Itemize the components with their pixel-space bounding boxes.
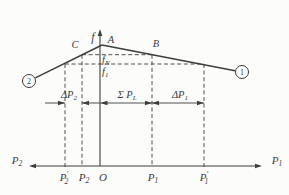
delta-p2-label: ΔP2	[60, 89, 78, 102]
point-a-label: A	[107, 34, 115, 45]
delta-p1-label: ΔP1	[171, 89, 188, 102]
tick-p1: P1	[147, 171, 158, 185]
frequency-axis-arrowhead	[98, 29, 103, 36]
point-c-label: C	[71, 39, 79, 50]
system-2-node-digit: 2	[27, 77, 31, 86]
system-1-characteristic-line	[102, 45, 235, 71]
point-b-label: B	[153, 38, 160, 49]
f1-level-guide-label: f1	[102, 66, 108, 79]
tick-origin: O	[99, 171, 107, 183]
tick-p2: P2	[78, 171, 90, 185]
frequency-power-diagram: fNf1fP2P121ABCΔP2Σ PLΔP1P′2P2OP1P′1	[0, 0, 289, 195]
system-1-node-digit: 1	[240, 68, 244, 77]
dimension-arrowhead-right-1	[58, 101, 65, 106]
dimension-arrowhead-left-3	[101, 101, 108, 106]
figure-canvas: fNf1fP2P121ABCΔP2Σ PLΔP1P′2P2OP1P′1	[0, 0, 289, 195]
power-axis-right-label: P1	[271, 154, 282, 168]
dimension-arrowhead-right-4	[197, 101, 204, 106]
power-axis-right-arrowhead	[255, 164, 262, 169]
power-axis-left-arrowhead	[29, 164, 36, 169]
dimension-arrowhead-left-4	[152, 101, 159, 106]
sigma-pl-label: Σ PL	[116, 89, 136, 102]
dimension-arrowhead-right-3	[145, 101, 152, 106]
system-2-characteristic-line	[35, 45, 102, 78]
tick-p2-prime: P′2	[59, 170, 69, 185]
tick-p1-prime: P′1	[199, 170, 209, 185]
dimension-arrowhead-left-2	[82, 101, 89, 106]
frequency-axis-label: f	[91, 30, 96, 44]
power-axis-left-label: P2	[11, 154, 23, 168]
